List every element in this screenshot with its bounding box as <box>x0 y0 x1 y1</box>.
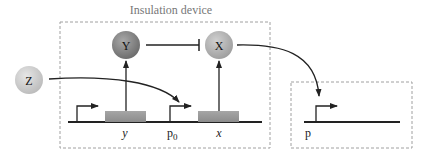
activation-curve-x-p <box>237 45 319 96</box>
gene-y-box <box>105 111 146 122</box>
promoter-p0-subscript: 0 <box>173 132 178 142</box>
insulation-device-diagram: Insulation device Y X Z y x p0 p <box>0 0 427 156</box>
node-z: Z <box>15 66 43 94</box>
gene-x-box <box>198 111 239 122</box>
promoter-arrow-p0 <box>170 106 191 122</box>
title-insulation-device: Insulation device <box>130 3 212 17</box>
promoter-p0-label: p0 <box>167 126 178 142</box>
insulation-device-box <box>60 22 270 148</box>
promoter-arrow-y <box>77 106 98 122</box>
activation-curve-z-p0 <box>49 78 179 102</box>
promoter-arrow-p <box>316 106 337 122</box>
node-y-label: Y <box>122 39 131 53</box>
node-x-label: X <box>215 39 224 53</box>
node-x: X <box>205 31 233 59</box>
promoter-p-label: p <box>305 126 311 140</box>
gene-y-label: y <box>121 126 128 140</box>
node-z-label: Z <box>25 74 32 88</box>
gene-x-label: x <box>215 126 222 140</box>
node-y: Y <box>112 31 140 59</box>
